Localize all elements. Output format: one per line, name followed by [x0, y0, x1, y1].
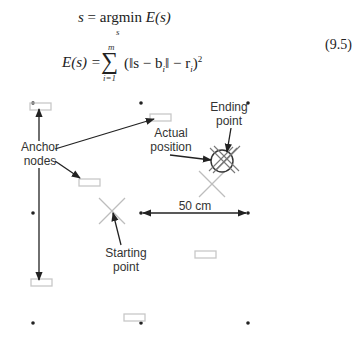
anchor-nodes-label: Anchor nodes — [10, 140, 70, 168]
actual-position-label: Actual position — [141, 126, 201, 154]
starting-point-x — [99, 198, 125, 224]
arrow-actual-position — [170, 155, 211, 160]
arrow-starting-point — [113, 213, 121, 245]
distance-label: 50 cm — [170, 199, 220, 213]
localization-diagram — [0, 0, 364, 338]
arrow-ending-point — [227, 128, 231, 152]
ending-point-label: Ending point — [204, 100, 254, 128]
intermediate-x — [199, 171, 225, 197]
starting-point-label: Starting point — [96, 246, 156, 274]
